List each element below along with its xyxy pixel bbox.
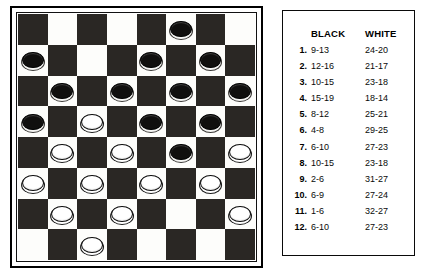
board-square-r3c6[interactable]: [166, 76, 196, 107]
checkerboard-grid: [18, 14, 255, 260]
board-square-r7c2[interactable]: [48, 199, 78, 230]
board-square-r1c6[interactable]: [166, 14, 196, 45]
black-checker-piece[interactable]: [22, 114, 44, 130]
board-square-r6c5[interactable]: [137, 168, 167, 199]
black-checker-piece[interactable]: [51, 83, 73, 99]
board-square-r1c3[interactable]: [77, 14, 107, 45]
board-square-r4c8[interactable]: [225, 106, 255, 137]
board-square-r3c7[interactable]: [196, 76, 226, 107]
board-square-r7c8[interactable]: [225, 199, 255, 230]
board-square-r7c3[interactable]: [77, 199, 107, 230]
board-square-r1c8[interactable]: [225, 14, 255, 45]
move-rows-container: 1.9-1324-202.12-1621-173.10-1523-184.15-…: [292, 45, 407, 238]
board-square-r8c1[interactable]: [18, 229, 48, 260]
white-checker-piece[interactable]: [81, 175, 103, 191]
white-checker-piece[interactable]: [22, 175, 44, 191]
board-square-r2c6[interactable]: [166, 45, 196, 76]
white-checker-piece[interactable]: [81, 237, 103, 253]
board-square-r8c6[interactable]: [166, 229, 196, 260]
board-square-r5c1[interactable]: [18, 137, 48, 168]
board-square-r4c4[interactable]: [107, 106, 137, 137]
board-square-r7c1[interactable]: [18, 199, 48, 230]
white-checker-piece[interactable]: [111, 206, 133, 222]
board-square-r4c7[interactable]: [196, 106, 226, 137]
white-checker-piece[interactable]: [81, 114, 103, 130]
board-square-r3c4[interactable]: [107, 76, 137, 107]
black-move: 6-10: [311, 222, 365, 232]
move-number: 12.: [292, 222, 311, 232]
board-square-r5c7[interactable]: [196, 137, 226, 168]
board-square-r5c5[interactable]: [137, 137, 167, 168]
white-checker-piece[interactable]: [200, 175, 222, 191]
board-square-r4c1[interactable]: [18, 106, 48, 137]
board-square-r6c4[interactable]: [107, 168, 137, 199]
board-square-r5c2[interactable]: [48, 137, 78, 168]
board-square-r8c4[interactable]: [107, 229, 137, 260]
board-square-r4c5[interactable]: [137, 106, 167, 137]
board-square-r5c6[interactable]: [166, 137, 196, 168]
black-checker-piece[interactable]: [170, 83, 192, 99]
white-checker-piece[interactable]: [140, 175, 162, 191]
white-checker-piece[interactable]: [229, 144, 251, 160]
board-square-r3c5[interactable]: [137, 76, 167, 107]
white-checker-piece[interactable]: [51, 144, 73, 160]
board-square-r4c6[interactable]: [166, 106, 196, 137]
black-move: 10-15: [311, 77, 365, 87]
black-checker-piece[interactable]: [140, 114, 162, 130]
board-square-r1c4[interactable]: [107, 14, 137, 45]
board-square-r1c2[interactable]: [48, 14, 78, 45]
board-square-r2c4[interactable]: [107, 45, 137, 76]
black-checker-piece[interactable]: [200, 114, 222, 130]
board-square-r8c5[interactable]: [137, 229, 167, 260]
board-square-r6c7[interactable]: [196, 168, 226, 199]
move-row: 7.6-1027-23: [292, 142, 407, 158]
board-square-r3c2[interactable]: [48, 76, 78, 107]
white-checker-piece[interactable]: [51, 206, 73, 222]
board-square-r1c1[interactable]: [18, 14, 48, 45]
white-checker-piece[interactable]: [111, 144, 133, 160]
board-square-r2c3[interactable]: [77, 45, 107, 76]
board-square-r2c7[interactable]: [196, 45, 226, 76]
board-square-r6c3[interactable]: [77, 168, 107, 199]
board-square-r8c3[interactable]: [77, 229, 107, 260]
black-checker-piece[interactable]: [200, 52, 222, 68]
board-square-r7c6[interactable]: [166, 199, 196, 230]
board-square-r3c1[interactable]: [18, 76, 48, 107]
black-checker-piece[interactable]: [22, 52, 44, 68]
white-move: 27-24: [365, 190, 407, 200]
white-checker-piece[interactable]: [229, 206, 251, 222]
board-square-r1c7[interactable]: [196, 14, 226, 45]
board-square-r2c5[interactable]: [137, 45, 167, 76]
black-move: 4-8: [311, 125, 365, 135]
board-square-r2c2[interactable]: [48, 45, 78, 76]
board-square-r6c6[interactable]: [166, 168, 196, 199]
board-square-r7c7[interactable]: [196, 199, 226, 230]
board-square-r8c2[interactable]: [48, 229, 78, 260]
board-square-r4c3[interactable]: [77, 106, 107, 137]
board-square-r3c8[interactable]: [225, 76, 255, 107]
board-square-r7c4[interactable]: [107, 199, 137, 230]
white-move: 29-25: [365, 125, 407, 135]
black-checker-piece[interactable]: [140, 52, 162, 68]
white-column-header: WHITE: [365, 28, 407, 39]
board-square-r1c5[interactable]: [137, 14, 167, 45]
board-square-r8c7[interactable]: [196, 229, 226, 260]
black-checker-piece[interactable]: [111, 83, 133, 99]
board-square-r3c3[interactable]: [77, 76, 107, 107]
board-square-r6c1[interactable]: [18, 168, 48, 199]
board-square-r2c1[interactable]: [18, 45, 48, 76]
board-square-r8c8[interactable]: [225, 229, 255, 260]
checkerboard-frame: [16, 12, 257, 262]
board-square-r6c8[interactable]: [225, 168, 255, 199]
board-square-r5c8[interactable]: [225, 137, 255, 168]
board-square-r5c3[interactable]: [77, 137, 107, 168]
board-square-r2c8[interactable]: [225, 45, 255, 76]
board-square-r7c5[interactable]: [137, 199, 167, 230]
black-checker-piece[interactable]: [170, 21, 192, 37]
black-checker-piece[interactable]: [229, 83, 251, 99]
board-square-r6c2[interactable]: [48, 168, 78, 199]
board-square-r5c4[interactable]: [107, 137, 137, 168]
board-square-r4c2[interactable]: [48, 106, 78, 137]
black-checker-piece[interactable]: [170, 144, 192, 160]
black-move: 6-10: [311, 142, 365, 152]
